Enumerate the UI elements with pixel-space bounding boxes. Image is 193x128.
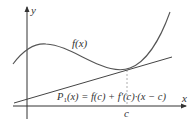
x-axis-label: x <box>181 92 187 104</box>
tangent-formula-label: P1(x) = f(c) + f′(c)·(x − c) <box>56 91 166 104</box>
tangent-line-diagram: y x f(x) c P1(x) = f(c) + f′(c)·(x − c) <box>0 0 193 128</box>
function-curve <box>13 12 170 70</box>
formula-body: (x) = f(c) + f′(c)·(x − c) <box>67 91 167 103</box>
y-axis-label: y <box>30 4 36 16</box>
curve-label: f(x) <box>72 37 88 50</box>
point-c-label: c <box>124 107 129 119</box>
